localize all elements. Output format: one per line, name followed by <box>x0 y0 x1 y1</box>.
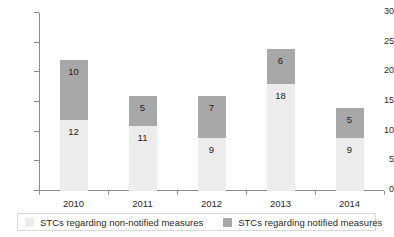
legend-item-non-notified[interactable]: STCs regarding non-notified measures <box>25 214 203 230</box>
bar-group[interactable]: 115 <box>129 13 157 191</box>
x-tick-label: 2012 <box>187 198 237 209</box>
bar-value-label: 5 <box>129 103 157 113</box>
x-tick-label: 2014 <box>325 198 375 209</box>
bar-value-label: 7 <box>198 103 226 113</box>
x-tick-mark <box>315 191 316 195</box>
bar-value-label: 18 <box>267 91 295 101</box>
bar-value-label: 5 <box>336 115 364 125</box>
x-tick-label: 2011 <box>118 198 168 209</box>
bar-value-label: 11 <box>129 133 157 143</box>
bar-value-label: 9 <box>198 145 226 155</box>
legend-label-non-notified: STCs regarding non-notified measures <box>40 217 203 228</box>
x-tick-mark <box>39 191 40 195</box>
bar-group[interactable]: 186 <box>267 13 295 191</box>
x-tick-label: 2010 <box>49 198 99 209</box>
bar-value-label: 9 <box>336 145 364 155</box>
x-tick-mark <box>384 191 385 195</box>
x-tick-mark <box>246 191 247 195</box>
bar-value-label: 10 <box>60 67 88 77</box>
legend-item-notified[interactable]: STCs regarding notified measures <box>223 214 382 230</box>
x-tick-mark <box>108 191 109 195</box>
bar-group[interactable]: 97 <box>198 13 226 191</box>
bar-value-label: 6 <box>267 56 295 66</box>
bar-value-label: 12 <box>60 127 88 137</box>
x-tick-label: 2013 <box>256 198 306 209</box>
bar-segment[interactable] <box>267 49 295 85</box>
legend-swatch-notified-icon <box>223 218 232 227</box>
plot-area: 12101159718695 <box>39 12 384 191</box>
legend-label-notified: STCs regarding notified measures <box>238 217 382 228</box>
chart-legend: STCs regarding non-notified measures STC… <box>17 213 376 231</box>
stacked-bar-chart: 051015202530 12101159718695 201020112012… <box>0 0 394 237</box>
x-tick-mark <box>177 191 178 195</box>
legend-swatch-non-notified-icon <box>25 218 34 227</box>
bar-group[interactable]: 1210 <box>60 13 88 191</box>
bar-group[interactable]: 95 <box>336 13 364 191</box>
